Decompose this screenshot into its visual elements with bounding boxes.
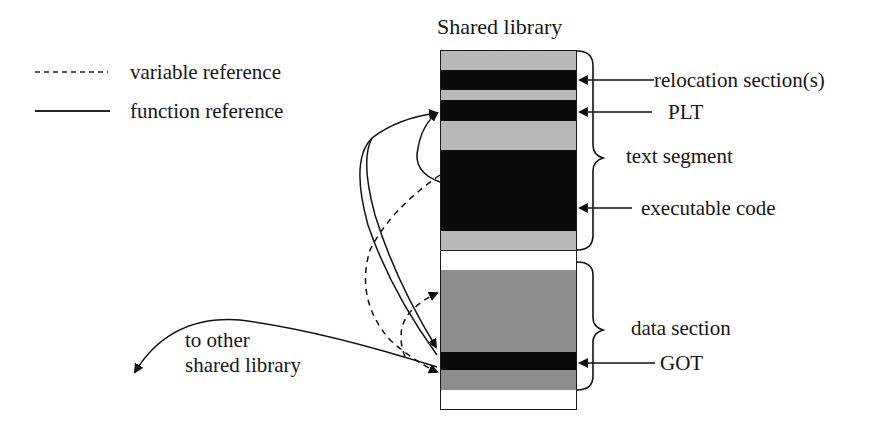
plt-label: PLT (668, 102, 703, 123)
data-section-brace (577, 262, 603, 390)
function-ref-code-to-plt (417, 113, 440, 182)
relocation-sections-label: relocation section(s) (654, 70, 825, 91)
function-ref-got-to-plt (360, 113, 437, 355)
other-library-label-line1: to other (185, 330, 250, 351)
function-ref-plt-to-got (367, 138, 436, 347)
executable-code-label: executable code (641, 198, 776, 219)
diagram-canvas: Shared library variable reference functi… (0, 0, 895, 436)
text-segment-brace (577, 51, 603, 250)
data-section-label: data section (631, 318, 731, 339)
got-label: GOT (660, 353, 703, 374)
text-segment-label: text segment (626, 146, 733, 167)
other-library-label-line2: shared library (185, 355, 301, 376)
